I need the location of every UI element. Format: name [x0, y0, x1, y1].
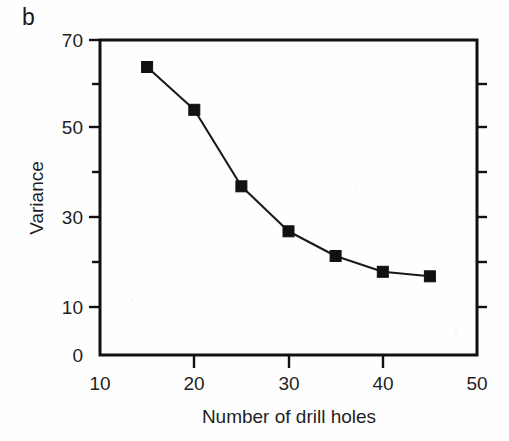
data-point-35: [330, 251, 341, 262]
x-tick-label-20: 20: [183, 373, 204, 394]
y-tick-label-50: 50: [62, 117, 83, 138]
series-markers: [142, 62, 436, 282]
y-tick-label-30: 30: [62, 207, 83, 228]
x-tick-label-10: 10: [89, 373, 110, 394]
data-point-15: [142, 62, 153, 73]
x-axis-title: Number of drill holes: [202, 406, 376, 427]
series-line-variance: [147, 67, 430, 276]
x-tick-label-50: 50: [466, 373, 487, 394]
data-point-25: [236, 181, 247, 192]
data-point-20: [189, 104, 200, 115]
x-axis-ticks: [194, 355, 383, 368]
x-tick-label-40: 40: [372, 373, 393, 394]
y-axis-title: Variance: [26, 161, 47, 235]
variance-vs-drill-holes-chart: 70 50 30 10 0 10 20 30 40 50 Variance Nu…: [0, 0, 509, 441]
data-point-40: [377, 266, 388, 277]
y-axis-major-ticks: [89, 40, 100, 307]
plot-frame: [100, 40, 477, 355]
figure-root: b: [0, 0, 509, 441]
y-tick-label-70: 70: [62, 30, 83, 51]
x-tick-label-30: 30: [278, 373, 299, 394]
y-tick-label-0: 0: [72, 345, 83, 366]
data-point-30: [283, 226, 294, 237]
y-tick-label-10: 10: [62, 297, 83, 318]
data-point-45: [424, 271, 435, 282]
